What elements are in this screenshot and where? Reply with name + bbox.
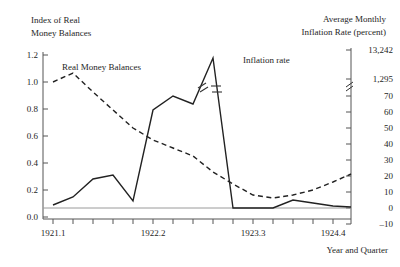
right-axis-break-marks [346, 82, 353, 91]
axis-spines [43, 48, 351, 219]
right-axis-ticks [346, 50, 351, 224]
chart-plot-area [0, 0, 400, 267]
series-line-real-money-balances [53, 73, 351, 198]
chart-figure: Index of Real Money Balances Average Mon… [0, 0, 400, 267]
x-axis-ticks [53, 219, 351, 224]
series-line-inflation-rate [53, 58, 351, 208]
left-axis-ticks [43, 55, 48, 217]
